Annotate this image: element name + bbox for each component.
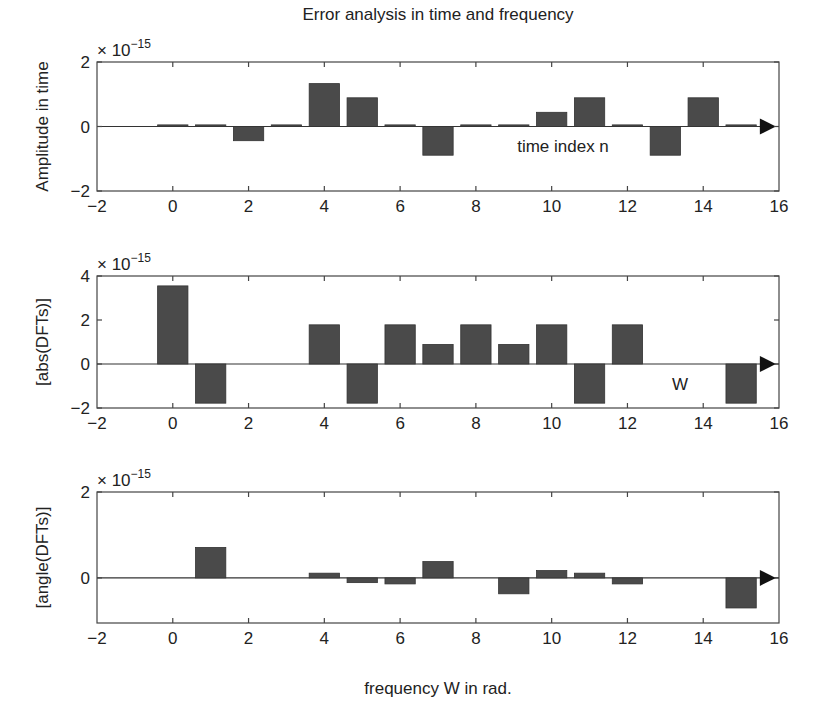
x-tick-label: 4 [320, 197, 329, 216]
y-axis-label: [angle(DFTs)] [33, 506, 52, 608]
axis-arrow-icon [760, 356, 776, 372]
panel-middle: −20246810121416420−2× 10−15[abs(DFTs)]W [33, 251, 788, 433]
bar [309, 84, 339, 127]
x-tick-label: −2 [87, 197, 106, 216]
x-tick-label: 8 [471, 414, 480, 433]
bar [271, 125, 301, 127]
x-tick-label: 2 [244, 629, 253, 648]
x-tick-label: 6 [395, 197, 404, 216]
bar [347, 364, 377, 403]
x-tick-label: 10 [542, 629, 561, 648]
x-tick-label: 8 [471, 197, 480, 216]
bar [423, 344, 453, 364]
bar [726, 364, 756, 403]
scale-exponent-label: × 10−15 [97, 251, 151, 274]
bar [423, 562, 453, 578]
y-tick-label: 0 [81, 118, 90, 137]
axis-arrow-icon [760, 119, 776, 135]
x-tick-label: 14 [694, 197, 713, 216]
y-axis-label: Amplitude in time [33, 61, 52, 191]
x-tick-label: 2 [244, 414, 253, 433]
bar [574, 364, 604, 403]
x-tick-label: 0 [168, 629, 177, 648]
x-tick-label: 12 [618, 197, 637, 216]
x-tick-label: −2 [87, 629, 106, 648]
bar [612, 578, 642, 584]
bar [461, 325, 491, 364]
y-tick-label: 0 [81, 355, 90, 374]
bar [309, 325, 339, 364]
bar [196, 364, 226, 403]
y-tick-label: −2 [71, 399, 90, 418]
x-tick-label: 12 [618, 414, 637, 433]
bar [574, 573, 604, 578]
figure-canvas: Error analysis in time and frequency −20… [0, 0, 820, 705]
y-tick-label: 2 [81, 53, 90, 72]
x-tick-label: 0 [168, 197, 177, 216]
y-tick-label: 4 [81, 267, 90, 286]
x-tick-label: 16 [770, 414, 789, 433]
x-tick-label: 4 [320, 629, 329, 648]
x-tick-label: 2 [244, 197, 253, 216]
bar [612, 125, 642, 127]
bar [499, 344, 529, 364]
x-tick-label: 12 [618, 629, 637, 648]
y-tick-label: 0 [81, 569, 90, 588]
bar [726, 125, 756, 127]
scale-exponent-label: × 10−15 [97, 467, 151, 490]
bar [196, 547, 226, 577]
x-tick-label: 14 [694, 414, 713, 433]
bar [385, 578, 415, 584]
bar [499, 578, 529, 594]
panel-bottom: −2024681012141620× 10−15[angle(DFTs)] [33, 467, 788, 648]
bar [688, 98, 718, 127]
bar [574, 98, 604, 127]
bar [347, 578, 377, 583]
x-tick-label: 4 [320, 414, 329, 433]
y-axis-label: [abs(DFTs)] [33, 298, 52, 386]
bar [196, 125, 226, 127]
y-tick-label: 2 [81, 483, 90, 502]
bar [347, 98, 377, 127]
x-tick-label: 10 [542, 414, 561, 433]
bar [309, 573, 339, 578]
y-tick-label: 2 [81, 311, 90, 330]
axis-annotation: W [672, 375, 688, 394]
x-tick-label: 16 [770, 629, 789, 648]
panel-top: −2024681012141620−2× 10−15Amplitude in t… [33, 37, 788, 216]
y-tick-label: −2 [71, 182, 90, 201]
x-tick-label: −2 [87, 414, 106, 433]
bar [537, 571, 567, 578]
bar [423, 127, 453, 156]
figure-title: Error analysis in time and frequency [302, 5, 574, 24]
bar [158, 286, 188, 364]
x-tick-label: 0 [168, 414, 177, 433]
x-axis-label: frequency W in rad. [364, 679, 511, 698]
x-tick-label: 6 [395, 414, 404, 433]
bar [461, 125, 491, 127]
bar [650, 127, 680, 156]
bar [385, 325, 415, 364]
bar [385, 125, 415, 127]
x-tick-label: 10 [542, 197, 561, 216]
scale-exponent-label: × 10−15 [97, 37, 151, 60]
x-tick-label: 14 [694, 629, 713, 648]
bar [158, 125, 188, 127]
x-tick-label: 6 [395, 629, 404, 648]
x-tick-label: 16 [770, 197, 789, 216]
bar [233, 127, 263, 141]
axis-annotation: time index n [517, 137, 609, 156]
bar [537, 325, 567, 364]
axis-arrow-icon [760, 570, 776, 586]
bar [499, 125, 529, 127]
x-tick-label: 8 [471, 629, 480, 648]
bar [726, 578, 756, 608]
bar [612, 325, 642, 364]
bar [537, 112, 567, 126]
